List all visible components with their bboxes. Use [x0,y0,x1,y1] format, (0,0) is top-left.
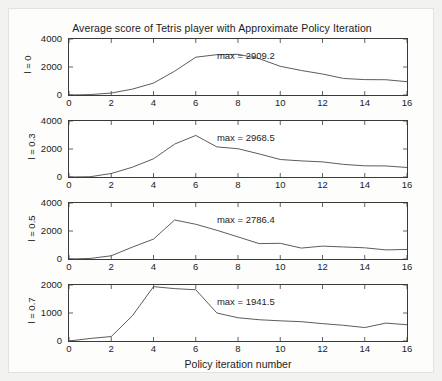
row-label-1: l = 0.3 [18,141,32,152]
subplot-svg-0 [69,39,407,95]
x-tick-label-3-7: 14 [353,343,377,354]
x-tick-label-0-1: 2 [99,97,123,108]
row-label-text-3: l = 0.7 [26,297,37,323]
x-tick-label-0-3: 6 [184,97,208,108]
x-tick-label-0-8: 16 [395,97,419,108]
x-tick-label-1-7: 14 [353,179,377,190]
x-tick-label-2-1: 2 [99,261,123,272]
x-tick-label-1-2: 4 [142,179,166,190]
data-line-3 [69,287,407,341]
row-label-3: l = 0.7 [18,305,32,316]
y-tick-label-3-0: 0 [22,335,62,346]
x-tick-label-2-2: 4 [142,261,166,272]
row-label-text-0: l = 0 [22,55,33,73]
x-tick-label-1-5: 10 [268,179,292,190]
x-tick-label-0-6: 12 [311,97,335,108]
x-tick-label-2-6: 12 [311,261,335,272]
y-tick-label-2-0: 0 [22,253,62,264]
x-tick-label-3-5: 10 [268,343,292,354]
x-tick-label-2-5: 10 [268,261,292,272]
x-tick-label-1-1: 2 [99,179,123,190]
row-label-text-2: l = 0.5 [26,215,37,241]
y-tick-label-0-2: 4000 [22,33,62,44]
x-tick-label-3-4: 8 [226,343,250,354]
subplot-svg-1 [69,121,407,177]
x-tick-label-3-8: 16 [395,343,419,354]
x-tick-label-0-7: 14 [353,97,377,108]
x-tick-label-2-0: 0 [57,261,81,272]
y-tick-label-1-2: 4000 [22,115,62,126]
x-tick-label-3-2: 4 [142,343,166,354]
data-line-2 [69,220,407,259]
subplot-panel-3 [68,284,408,342]
y-tick-label-0-0: 0 [22,89,62,100]
figure-paper: Average score of Tetris player with Appr… [8,8,434,373]
x-tick-label-1-8: 16 [395,179,419,190]
x-tick-label-0-0: 0 [57,97,81,108]
x-tick-label-2-4: 8 [226,261,250,272]
subplot-panel-2 [68,202,408,260]
max-annotation-1: max = 2968.5 [217,132,275,143]
x-tick-label-2-3: 6 [184,261,208,272]
subplot-panel-1 [68,120,408,178]
y-tick-label-1-0: 0 [22,171,62,182]
y-tick-label-2-2: 4000 [22,197,62,208]
x-tick-label-0-2: 4 [142,97,166,108]
figure-background: Average score of Tetris player with Appr… [0,0,442,381]
max-annotation-3: max = 1941.5 [217,296,275,307]
x-tick-label-3-3: 6 [184,343,208,354]
max-annotation-0: max = 2909.2 [217,50,275,61]
subplot-svg-3 [69,285,407,341]
x-tick-label-1-3: 6 [184,179,208,190]
subplot-svg-2 [69,203,407,259]
x-tick-label-3-6: 12 [311,343,335,354]
x-tick-label-3-1: 2 [99,343,123,354]
plot-area: Average score of Tetris player with Appr… [22,16,422,366]
x-axis-title: Policy iteration number [68,358,408,370]
x-tick-label-1-6: 12 [311,179,335,190]
row-label-text-1: l = 0.3 [26,133,37,159]
chart-title: Average score of Tetris player with Appr… [22,22,422,34]
x-tick-label-3-0: 0 [57,343,81,354]
row-label-0: l = 0 [18,59,32,70]
subplot-panel-0 [68,38,408,96]
row-label-2: l = 0.5 [18,223,32,234]
y-tick-label-3-2: 2000 [22,279,62,290]
max-annotation-2: max = 2786.4 [217,214,275,225]
x-tick-label-1-4: 8 [226,179,250,190]
x-tick-label-1-0: 0 [57,179,81,190]
x-tick-label-0-4: 8 [226,97,250,108]
x-tick-label-0-5: 10 [268,97,292,108]
x-tick-label-2-7: 14 [353,261,377,272]
x-tick-label-2-8: 16 [395,261,419,272]
